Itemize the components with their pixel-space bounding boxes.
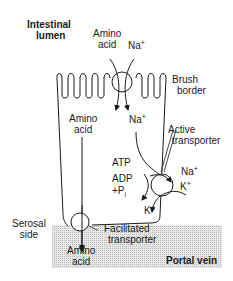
amino-acid-lumen-label: Aminoacid	[93, 28, 121, 50]
serosal-label: Serosalside	[12, 218, 46, 240]
atp-label: ATP	[112, 157, 131, 168]
active-transporter-circle	[151, 174, 173, 196]
facilitated-transporter-circle	[71, 213, 89, 231]
na-out-label: Na+	[181, 166, 198, 177]
na-cell-label: Na+	[129, 114, 146, 125]
lumen-label: Intestinallumen	[27, 19, 71, 41]
k-in-label: K+	[180, 181, 191, 192]
active-transporter-label: Activetransporter	[168, 124, 220, 146]
facilitated-transporter-label: Facilitatedtransporter	[104, 223, 156, 245]
k-cell-label: K+	[144, 205, 155, 216]
brush-border-label: Brushborder	[172, 74, 206, 96]
pi-label: +Pi	[112, 185, 126, 196]
na-lumen-label: Na+	[128, 40, 145, 51]
enterocyte-outline	[57, 74, 166, 227]
amino-acid-cell-label: Aminoacid	[69, 113, 97, 135]
amino-acid-blood-label: Aminoacid	[67, 245, 95, 267]
symporter-circle	[112, 72, 132, 92]
portal-vein-label: Portal vein	[166, 255, 217, 266]
adp-label: ADP	[112, 173, 133, 184]
